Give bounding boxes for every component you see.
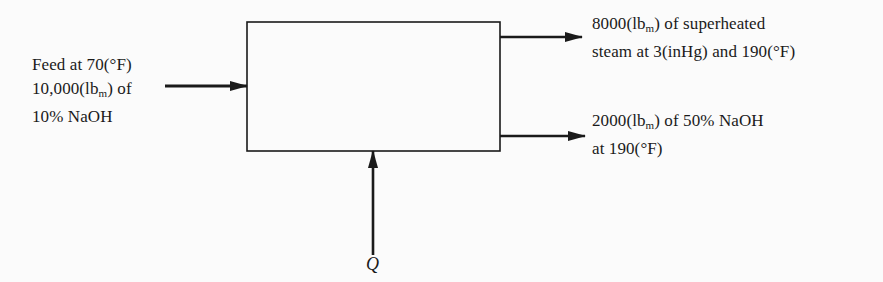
vapor-line-1: 8000(lbm) of superheated — [592, 12, 795, 40]
feed-line-2: 10,000(lbm) of — [32, 77, 132, 105]
liquid-line-2: at 190(°F) — [592, 137, 764, 161]
process-unit-box — [247, 22, 500, 151]
feed-line-3: 10% NaOH — [32, 105, 132, 129]
feed-line-1: Feed at 70(°F) — [32, 53, 132, 77]
subscript-m: m — [646, 22, 655, 34]
vapor-outlet-label: 8000(lbm) of superheated steam at 3(inHg… — [592, 12, 795, 64]
heat-label-q: Q — [366, 254, 379, 275]
feed-stream-label: Feed at 70(°F) 10,000(lbm) of 10% NaOH — [32, 53, 132, 129]
liquid-line-1: 2000(lbm) of 50% NaOH — [592, 109, 764, 137]
subscript-m: m — [99, 87, 108, 99]
subscript-m: m — [646, 119, 655, 131]
liquid-outlet-label: 2000(lbm) of 50% NaOH at 190(°F) — [592, 109, 764, 161]
vapor-line-2: steam at 3(inHg) and 190(°F) — [592, 40, 795, 64]
